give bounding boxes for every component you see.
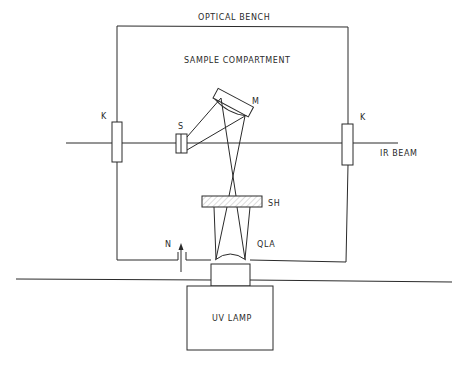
sample-holder xyxy=(176,134,187,153)
label-sample-compartment: SAMPLE COMPARTMENT xyxy=(184,56,291,65)
light-rays xyxy=(187,98,250,259)
mirror xyxy=(211,88,253,120)
lamp-neck xyxy=(211,264,250,286)
label-sample: S xyxy=(178,122,184,131)
quartz-lens xyxy=(215,254,246,260)
label-lens: QLA xyxy=(257,240,275,249)
label-nitrogen: N xyxy=(165,240,172,249)
title-optical-bench: OPTICAL BENCH xyxy=(198,13,270,22)
optical-setup-diagram: OPTICAL BENCH SAMPLE COMPARTMENT K K S M… xyxy=(0,0,464,367)
label-shutter: SH xyxy=(268,199,280,208)
label-ir-beam: IR BEAM xyxy=(380,149,418,158)
label-k-left: K xyxy=(101,112,107,121)
label-k-right: K xyxy=(360,113,366,122)
window-right-k xyxy=(342,124,353,165)
base-line xyxy=(16,279,211,280)
label-mirror: M xyxy=(252,97,260,106)
nitrogen-inlet-arrow xyxy=(179,243,184,272)
window-left-k xyxy=(112,122,122,162)
base-line-right xyxy=(250,280,452,282)
label-uv-lamp: UV LAMP xyxy=(212,314,252,323)
shutter xyxy=(202,196,262,207)
